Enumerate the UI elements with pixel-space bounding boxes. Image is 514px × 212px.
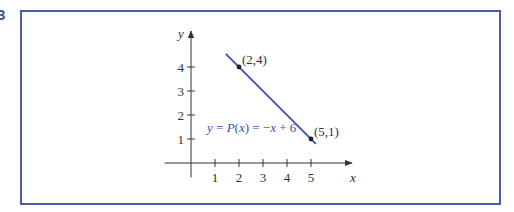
point-label: (5,1) — [314, 124, 339, 139]
y-tick-label: 1 — [178, 132, 185, 147]
x-tick-label: 3 — [260, 170, 267, 185]
data-point — [309, 137, 314, 142]
axis-labels: 123451234xyy = P(x) = −x + 6 — [176, 26, 356, 185]
y-tick-label: 3 — [178, 84, 185, 99]
y-tick-label: 4 — [178, 60, 185, 75]
data-point — [237, 65, 242, 70]
point-label: (2,4) — [242, 52, 267, 67]
equation-label: y = P(x) = −x + 6 — [205, 120, 297, 135]
x-tick-label: 1 — [212, 170, 219, 185]
x-axis-label: x — [349, 170, 356, 185]
x-tick-label: 2 — [236, 170, 243, 185]
x-tick-label: 5 — [308, 170, 315, 185]
y-axis-label: y — [176, 26, 184, 41]
x-tick-label: 4 — [284, 170, 291, 185]
y-tick-label: 2 — [178, 108, 185, 123]
tick-marks — [187, 67, 311, 167]
line-plot: (2,4)(5,1) 123451234xyy = P(x) = −x + 6 — [0, 0, 514, 212]
